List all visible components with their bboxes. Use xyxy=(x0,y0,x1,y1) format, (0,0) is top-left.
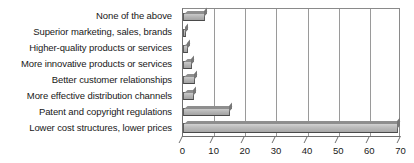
category-label: Lower cost structures, lower prices xyxy=(0,120,176,136)
bar-row xyxy=(183,41,399,57)
bar-row xyxy=(183,104,399,120)
bar-row xyxy=(183,73,399,89)
horizontal-bar-chart: None of the above Superior marketing, sa… xyxy=(0,0,414,163)
axis-tick-label: 20 xyxy=(239,146,250,156)
bar xyxy=(183,13,205,21)
category-label: More effective distribution channels xyxy=(0,88,176,104)
axis-tick xyxy=(303,136,307,143)
bar xyxy=(183,29,186,37)
axis-tick xyxy=(241,136,245,143)
bar-row xyxy=(183,9,399,25)
axis-tick xyxy=(397,136,401,143)
axis-tick xyxy=(179,136,183,143)
axis-tick-label: 40 xyxy=(302,146,313,156)
x-axis-tick-labels: 010203040506070 xyxy=(0,146,414,160)
bar-row xyxy=(183,88,399,104)
axis-tick xyxy=(334,136,338,143)
axis-tick-label: 70 xyxy=(395,146,406,156)
bar-row xyxy=(183,25,399,41)
bars-layer xyxy=(183,9,399,136)
category-label: Higher-quality products or services xyxy=(0,40,176,56)
plot-area xyxy=(182,8,400,136)
axis-tick xyxy=(210,136,214,143)
category-label: Better customer relationships xyxy=(0,72,176,88)
axis-tick xyxy=(365,136,369,143)
category-label: None of the above xyxy=(0,8,176,24)
bar xyxy=(183,92,194,100)
category-label: Patent and copyright regulations xyxy=(0,104,176,120)
bar xyxy=(183,123,398,133)
axis-tick xyxy=(272,136,276,143)
axis-tick-label: 50 xyxy=(333,146,344,156)
axis-tick-label: 60 xyxy=(364,146,375,156)
x-axis-ticks xyxy=(176,136,400,144)
bar-row xyxy=(183,120,399,136)
axis-tick-label: 0 xyxy=(180,146,185,156)
bar xyxy=(183,61,192,69)
bar xyxy=(183,76,195,84)
bar xyxy=(183,45,188,53)
category-label: More innovative products or services xyxy=(0,56,176,72)
bar-row xyxy=(183,57,399,73)
category-label: Superior marketing, sales, brands xyxy=(0,24,176,40)
axis-tick-label: 10 xyxy=(208,146,219,156)
axis-tick-label: 30 xyxy=(271,146,282,156)
bar xyxy=(183,108,230,116)
category-axis: None of the above Superior marketing, sa… xyxy=(0,8,176,136)
